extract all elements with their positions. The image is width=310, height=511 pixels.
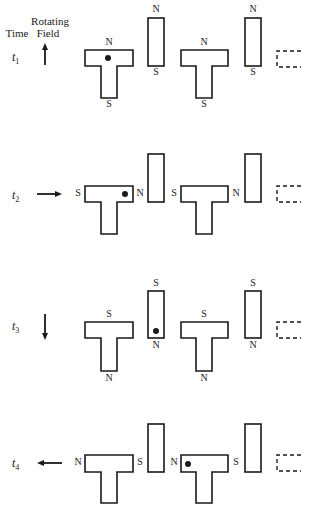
pole-label: N — [105, 372, 112, 383]
pole-label: N — [152, 339, 159, 350]
continuation-dashed-bracket — [277, 322, 301, 338]
rotor-t-shape: SN — [75, 186, 143, 234]
continuation-dashed-bracket — [277, 51, 301, 67]
continuation-dashed-bracket — [277, 186, 301, 202]
pole-label: S — [201, 98, 207, 109]
reference-dot — [185, 461, 191, 467]
pole-label: N — [136, 187, 143, 198]
pole-label: N — [152, 3, 159, 14]
time-step-row: t3SNSNSNSN — [12, 277, 301, 383]
time-label: t1 — [12, 50, 19, 66]
pole-label: S — [201, 308, 207, 319]
time-label: t4 — [12, 456, 19, 472]
field-column-header-line2: Field — [37, 27, 60, 39]
pole-label: N — [170, 456, 177, 467]
time-step-row: t4NSNS — [12, 424, 301, 503]
pole-label: S — [153, 277, 159, 288]
reference-dot — [105, 55, 111, 61]
stator-bar: SN — [148, 277, 164, 350]
field-arrow-right-icon — [37, 191, 62, 197]
reference-dot — [153, 328, 159, 334]
pole-label: S — [137, 456, 143, 467]
pole-label: S — [250, 277, 256, 288]
pole-label: S — [75, 187, 81, 198]
rotor-t-shape: SN — [85, 308, 133, 383]
field-column-header-line1: Rotating — [31, 15, 69, 27]
rotating-field-diagram: Time Rotating Field t1NSNSNSNSt2SNSNt3SN… — [0, 0, 310, 511]
stator-bar — [245, 154, 261, 202]
time-column-header: Time — [6, 27, 29, 39]
field-arrow-up-icon — [42, 43, 48, 65]
pole-label: S — [106, 98, 112, 109]
pole-label: N — [200, 36, 207, 47]
pole-label: N — [249, 339, 256, 350]
pole-label: N — [105, 36, 112, 47]
pole-label: S — [250, 66, 256, 77]
pole-label: S — [171, 187, 177, 198]
rotor-t-shape: NS — [85, 36, 133, 109]
stator-bar — [245, 424, 261, 472]
time-label: t2 — [12, 188, 19, 204]
rotor-t-shape: SN — [171, 186, 239, 234]
rotor-t-shape: NS — [181, 36, 228, 109]
stator-bar: NS — [245, 3, 261, 77]
rotor-t-shape: NS — [170, 455, 238, 503]
continuation-dashed-bracket — [277, 455, 301, 471]
time-step-row: t2SNSN — [12, 154, 301, 234]
pole-label: N — [249, 3, 256, 14]
pole-label: S — [153, 66, 159, 77]
pole-label: S — [106, 308, 112, 319]
rotor-t-shape: NS — [74, 455, 142, 503]
stator-bar — [148, 424, 164, 472]
time-step-rows: t1NSNSNSNSt2SNSNt3SNSNSNSNt4NSNS — [12, 3, 301, 503]
field-arrow-left-icon — [37, 460, 62, 466]
stator-bar — [148, 154, 164, 202]
rotor-t-shape: SN — [181, 308, 228, 383]
stator-bar: NS — [148, 3, 164, 77]
time-label: t3 — [12, 319, 19, 335]
reference-dot — [122, 191, 128, 197]
pole-label: N — [74, 456, 81, 467]
pole-label: N — [200, 372, 207, 383]
stator-bar: SN — [245, 277, 261, 350]
pole-label: N — [232, 187, 239, 198]
pole-label: S — [233, 456, 239, 467]
field-arrow-down-icon — [42, 314, 48, 340]
